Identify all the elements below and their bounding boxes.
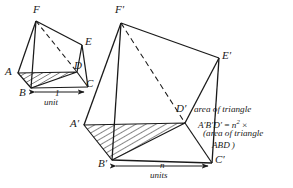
vertex-label-D-prime: D′ xyxy=(176,103,186,114)
vertex-label-B: B xyxy=(19,87,26,98)
edge-F1-E1 xyxy=(121,23,219,58)
edge-B-C xyxy=(31,87,88,88)
vertex-label-C-prime: C′ xyxy=(215,154,225,165)
edge-F-E xyxy=(36,21,82,45)
large-base-measure-unit: units xyxy=(150,171,168,180)
small-prism-group xyxy=(18,21,88,92)
vertex-label-D: D xyxy=(74,60,82,71)
vertex-label-E: E xyxy=(85,36,92,47)
small-base-measure-unit: unit xyxy=(44,98,58,107)
large-prism-group xyxy=(84,23,219,166)
large-base-measure-value: n xyxy=(160,161,165,170)
vertex-label-C: C xyxy=(86,78,93,89)
small-base-triangle-ABD-hatch xyxy=(18,72,77,88)
area-annotation-line-3: (area of triangle xyxy=(203,128,263,140)
vertex-label-A-prime: A′ xyxy=(70,118,79,129)
vertex-label-F: F xyxy=(33,4,40,15)
area-annotation-line-4: ABD ) xyxy=(212,140,235,152)
geometry-figure: F E A D B C 1 unit F′ E′ A′ D′ B′ C′ n u… xyxy=(0,0,293,188)
vertex-label-E-prime: E′ xyxy=(222,50,231,61)
large-base-triangle-A1B1D1-hatch xyxy=(84,123,185,160)
area-annotation-line-1: area of triangle xyxy=(194,104,251,116)
vertex-label-F-prime: F′ xyxy=(115,4,124,15)
vertex-label-B-prime: B′ xyxy=(98,158,107,169)
figure-canvas xyxy=(0,0,293,188)
vertex-label-A: A xyxy=(5,66,12,77)
diagonal-F-D-dashed xyxy=(36,21,77,72)
